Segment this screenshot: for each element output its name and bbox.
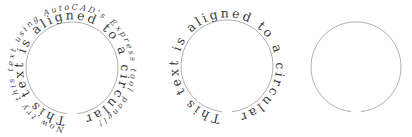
panel-1: This text is aligned to a circular arc! … bbox=[0, 0, 138, 134]
panel-3 bbox=[311, 22, 401, 112]
circle-arc bbox=[311, 22, 401, 112]
circle-arc bbox=[26, 22, 118, 114]
circle-arc bbox=[181, 20, 273, 112]
arc-text-illustration: This text is aligned to a circular arc! … bbox=[0, 0, 412, 137]
